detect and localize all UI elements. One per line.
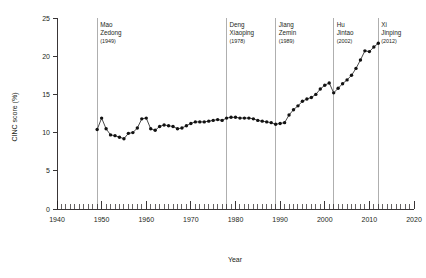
data-point [278,122,281,125]
data-point [198,120,201,123]
annotation-name-line1: Hu [337,21,346,28]
data-point [153,129,156,132]
data-point [332,91,335,94]
data-point [234,116,237,119]
data-point [109,133,112,136]
data-point [95,128,98,131]
data-point [131,131,134,134]
data-point [118,135,121,138]
data-point [167,124,170,127]
annotation-name-line1: Deng [230,21,246,29]
data-point [158,125,161,128]
data-point [113,134,116,137]
data-point [207,119,210,122]
data-point [189,122,192,125]
annotation-name-line2: Jintao [337,29,354,36]
data-point [354,67,357,70]
data-point [171,125,174,128]
annotation-name-line1: Jiang [279,21,295,29]
data-point [265,120,268,123]
annotation-year: (2012) [381,38,397,44]
data-point [243,116,246,119]
data-point [323,84,326,87]
annotation-year: (1978) [230,38,246,44]
data-point [211,119,214,122]
data-point [283,121,286,124]
data-point [296,104,299,107]
chart-background [0,0,426,278]
y-tick-label-15: 15 [42,91,50,98]
x-tick-label-2010: 2010 [362,216,378,223]
data-point [216,118,219,121]
annotation-name-line2: Jinping [381,29,401,37]
annotation-year: (2002) [337,38,353,44]
x-tick-label-2000: 2000 [317,216,333,223]
data-point [162,123,165,126]
data-point [336,87,339,90]
y-tick-label-0: 0 [46,206,50,213]
data-point [341,82,344,85]
annotation-name-line1: Xi [381,21,387,28]
data-point [310,96,313,99]
x-tick-label-1950: 1950 [94,216,110,223]
data-point [314,93,317,96]
x-tick-label-1970: 1970 [183,216,199,223]
annotation-name-line2: Zedong [100,29,122,37]
data-point [270,121,273,124]
annotation-name-line2: Xiaoping [230,29,255,37]
chart-figure: 0510152025 19401950196019701980199020002… [0,0,426,278]
data-point [368,50,371,53]
x-tick-label-1980: 1980 [228,216,244,223]
data-point [301,100,304,103]
annotation-name-line2: Zemin [279,29,297,36]
x-tick-label-2020: 2020 [406,216,422,223]
data-point [149,127,152,130]
data-point [229,116,232,119]
y-tick-label-5: 5 [46,167,50,174]
data-point [377,42,380,45]
data-point [372,45,375,48]
y-tick-label-20: 20 [42,53,50,60]
x-tick-label-1940: 1940 [49,216,65,223]
data-point [363,49,366,52]
data-point [203,120,206,123]
data-point [305,97,308,100]
data-point [252,117,255,120]
x-tick-label-1960: 1960 [138,216,154,223]
data-point [176,127,179,130]
y-tick-label-25: 25 [42,15,50,22]
y-axis-title: CINC score (%) [11,92,19,141]
annotation-name-line1: Mao [100,21,113,28]
data-point [319,87,322,90]
data-point [122,137,125,140]
data-point [261,119,264,122]
data-point [100,116,103,119]
data-point [238,116,241,119]
data-point [127,132,130,135]
data-point [287,113,290,116]
data-point [350,74,353,77]
data-point [140,117,143,120]
annotation-year: (1949) [100,38,116,44]
x-axis-title: Year [228,256,243,263]
data-point [180,126,183,129]
data-point [247,116,250,119]
cinc-score-line-chart: 0510152025 19401950196019701980199020002… [0,0,426,278]
x-tick-label-1990: 1990 [272,216,288,223]
data-point [145,116,148,119]
y-tick-label-10: 10 [42,129,50,136]
data-point [136,126,139,129]
annotation-year: (1989) [279,38,295,44]
data-point [328,81,331,84]
data-point [274,123,277,126]
data-point [220,119,223,122]
data-point [345,78,348,81]
data-point [194,120,197,123]
data-point [359,58,362,61]
data-point [292,108,295,111]
data-point [256,119,259,122]
data-point [185,124,188,127]
data-point [225,116,228,119]
data-point [104,127,107,130]
